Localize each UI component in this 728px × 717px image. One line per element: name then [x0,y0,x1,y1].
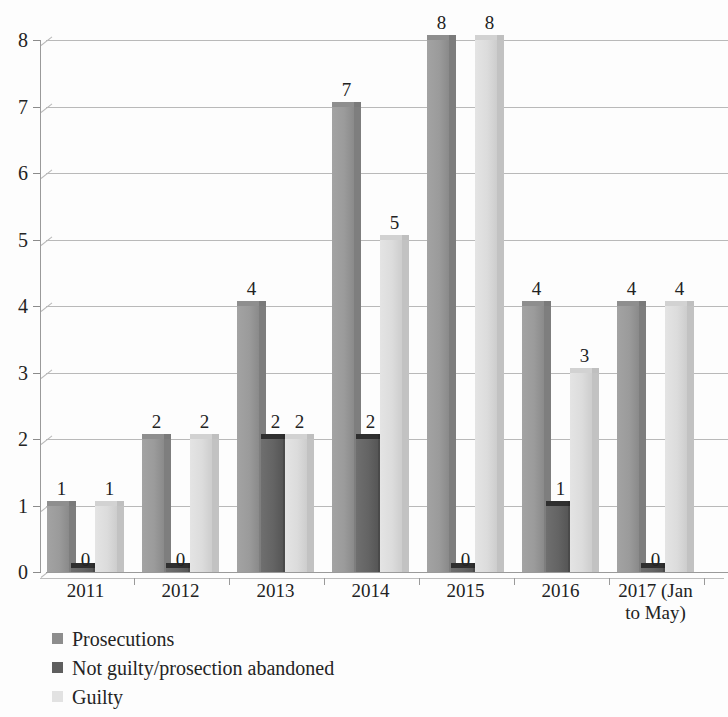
bar-chart: 0123456781012011202201242220137252014808… [0,0,728,717]
x-axis-label-2013: 2013 [221,580,331,602]
y-axis-tick-label-2: 2 [4,429,28,449]
x-axis-line-back [46,572,728,573]
legend-label-guilty: Guilty [72,686,123,708]
bar-front-face [522,306,544,572]
bar-front-face [142,439,164,572]
bar-top-face [142,434,164,439]
bar-top-face [95,501,117,506]
bar-top-side-face [544,301,551,306]
bar-prosecutions-2017-jan-to-may- [617,306,639,572]
gridline-riser-y-6 [41,169,53,178]
bar-top-side-face [449,35,456,40]
data-label-prosecutions-2014: 7 [332,80,362,99]
data-label-prosecutions-2013: 4 [237,279,267,298]
bar-top-face [617,301,639,306]
bar-front-face [665,306,687,572]
gridline-y-6 [46,173,728,174]
bar-not-guilty-2013 [261,439,283,572]
bar-top-face [475,35,497,40]
data-label-guilty-2017-jan-to-may-: 4 [665,279,695,298]
bar-side-face [687,306,694,572]
bar-top-face [285,434,307,439]
y-axis-tick-label-0: 0 [4,562,28,582]
bar-top-side-face [117,501,124,506]
bar-top-side-face [354,102,361,107]
bar-guilty-2011 [95,506,117,573]
bar-front-face [237,306,259,572]
data-label-guilty-2011: 1 [95,479,125,498]
x-axis-label-2014: 2014 [316,580,426,602]
legend-item-not-guilty: Not guilty/prosection abandoned [52,653,612,682]
data-label-prosecutions-2017-jan-to-may-: 4 [617,279,647,298]
x-axis-label-2017-jan-to-may-: 2017 (Janto May) [601,580,711,624]
bar-top-side-face [259,301,266,306]
bar-front-face [617,306,639,572]
data-label-prosecutions-2011: 1 [47,479,77,498]
bar-top-face [47,501,69,506]
gridline-y-8 [46,40,728,41]
bar-prosecutions-2012 [142,439,164,572]
bar-not-guilty-2016 [546,506,568,573]
bar-front-face [380,240,402,573]
bar-prosecutions-2013 [237,306,259,572]
bar-top-side-face [497,35,504,40]
bar-top-face [332,102,354,107]
data-label-prosecutions-2016: 4 [522,279,552,298]
y-axis-line [40,40,41,572]
legend-swatch-icon-not-guilty [52,662,63,673]
gridline-riser-y-2 [41,435,53,444]
bar-front-face [95,506,117,573]
bar-side-face [307,439,314,572]
chart-legend: Prosecutions Not guilty/prosection aband… [52,624,612,711]
bar-guilty-2012 [190,439,212,572]
bar-prosecutions-2014 [332,107,354,573]
x-axis-label-2012: 2012 [126,580,236,602]
bar-top-side-face [639,301,646,306]
bar-front-face [261,439,283,572]
bar-top-face [522,301,544,306]
bar-front-face [427,40,449,572]
bar-side-face [117,506,124,573]
gridline-riser-y-8 [41,36,53,45]
bar-prosecutions-2011 [47,506,69,573]
bar-top-face [570,368,592,373]
bar-top-face [546,501,568,506]
bar-front-face [332,107,354,573]
bar-side-face [639,306,646,572]
bar-prosecutions-2016 [522,306,544,572]
bar-top-side-face [687,301,694,306]
bar-top-side-face [307,434,314,439]
bar-top-side-face [164,434,171,439]
bar-front-face [285,439,307,572]
bar-guilty-2015 [475,40,497,572]
gridline-riser-y-4 [41,302,53,311]
x-axis-label-line-1: 2017 (Jan [601,580,711,602]
plot-area: 0123456781012011202201242220137252014808… [0,0,728,600]
bar-top-face [665,301,687,306]
legend-label-prosecutions: Prosecutions [72,628,174,650]
y-axis-tick-label-4: 4 [4,296,28,316]
data-label-guilty-2015: 8 [475,13,505,32]
bar-side-face [592,373,599,573]
bar-prosecutions-2015 [427,40,449,572]
legend-item-prosecutions: Prosecutions [52,624,612,653]
bar-top-side-face [592,368,599,373]
y-axis-tick-label-5: 5 [4,230,28,250]
bar-front-face [47,506,69,573]
legend-swatch-icon-prosecutions [52,633,63,644]
bar-guilty-2014 [380,240,402,573]
bar-front-face [356,439,378,572]
bar-front-face [570,373,592,573]
y-axis-tick-label-8: 8 [4,30,28,50]
bar-top-face [380,235,402,240]
bar-top-side-face [402,235,409,240]
bar-not-guilty-2014 [356,439,378,572]
bar-top-face [356,434,378,439]
legend-item-guilty: Guilty [52,682,612,711]
bar-top-face [190,434,212,439]
y-axis-tick-label-3: 3 [4,363,28,383]
bar-guilty-2017-jan-to-may- [665,306,687,572]
bar-guilty-2016 [570,373,592,573]
x-axis-label-2011: 2011 [31,580,141,602]
data-label-prosecutions-2012: 2 [142,412,172,431]
